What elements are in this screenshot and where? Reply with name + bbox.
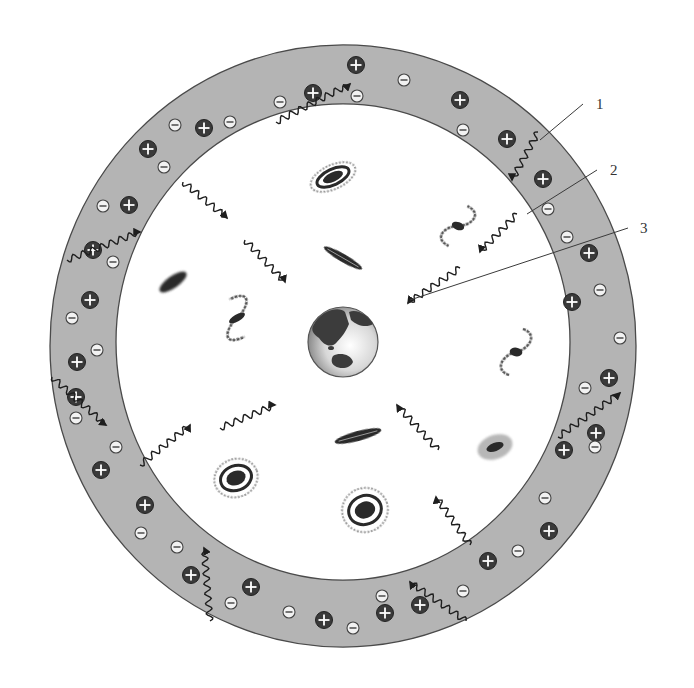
galaxy-spiral-bottom-left-icon [209, 453, 263, 504]
plus-charge-icon [121, 197, 138, 214]
galaxy-spiral-left-icon [212, 292, 262, 344]
minus-charge-icon [614, 332, 626, 344]
galaxy-edge-on-top-icon [322, 244, 364, 273]
minus-charge-icon [135, 527, 147, 539]
galaxy-spiral-top-icon [306, 156, 360, 198]
minus-charge-icon [110, 441, 122, 453]
callout-3-label: 3 [640, 220, 648, 236]
plus-charge-icon [452, 92, 469, 109]
minus-charge-icon [594, 284, 606, 296]
minus-charge-icon [539, 492, 551, 504]
plus-charge-icon [93, 462, 110, 479]
callout-1-label: 1 [596, 96, 604, 112]
minus-charge-icon [589, 441, 601, 453]
minus-charge-icon [542, 203, 554, 215]
minus-charge-icon [274, 96, 286, 108]
plus-charge-icon [316, 612, 333, 629]
minus-charge-icon [158, 161, 170, 173]
plus-charge-icon [535, 171, 552, 188]
minus-charge-icon [224, 116, 236, 128]
galaxy-edge-on-bottom-icon [334, 425, 383, 447]
galaxy-spiral-bottom-icon [336, 481, 394, 538]
plus-charge-icon [564, 294, 581, 311]
galaxy-spiral-right-icon [499, 326, 532, 378]
wave-in-3-arrow-icon [480, 213, 517, 252]
minus-charge-icon [457, 124, 469, 136]
plus-charge-icon [541, 523, 558, 540]
minus-charge-icon [171, 541, 183, 553]
minus-charge-icon [561, 231, 573, 243]
minus-charge-icon [347, 622, 359, 634]
plus-charge-icon [69, 354, 86, 371]
wave-in-6-arrow-icon [436, 497, 471, 545]
minus-charge-icon [107, 256, 119, 268]
minus-charge-icon [169, 119, 181, 131]
wave-in-4-arrow-icon [408, 267, 460, 303]
plus-charge-icon [601, 370, 618, 387]
wave-in-5-arrow-icon [397, 405, 439, 450]
plus-charge-icon [412, 597, 429, 614]
wave-in-1-arrow-icon [183, 182, 228, 218]
minus-charge-icon [579, 382, 591, 394]
diagram-canvas: 123 [0, 0, 694, 688]
minus-charge-icon [97, 200, 109, 212]
callout-1-leader-line [540, 104, 583, 140]
minus-charge-icon [512, 545, 524, 557]
plus-charge-icon [137, 497, 154, 514]
plus-charge-icon [377, 605, 394, 622]
plus-charge-icon [499, 131, 516, 148]
minus-charge-icon [351, 90, 363, 102]
galaxy-spiral-right-top-icon [439, 201, 478, 251]
callout-2-label: 2 [610, 162, 618, 178]
plus-charge-icon [480, 553, 497, 570]
plus-charge-icon [348, 57, 365, 74]
plus-charge-icon [140, 141, 157, 158]
plus-charge-icon [243, 579, 260, 596]
plus-charge-icon [196, 120, 213, 137]
minus-charge-icon [457, 585, 469, 597]
wave-out-1-arrow-icon [220, 405, 275, 430]
minus-charge-icon [91, 344, 103, 356]
galaxy-elliptical-left-icon [156, 268, 189, 296]
plus-charge-icon [581, 245, 598, 262]
minus-charge-icon [225, 597, 237, 609]
wave-out-2-arrow-icon [140, 425, 190, 466]
galaxy-irregular-icon [474, 430, 516, 465]
minus-charge-icon [66, 312, 78, 324]
plus-charge-icon [82, 292, 99, 309]
minus-charge-icon [70, 412, 82, 424]
earth-globe-icon [308, 307, 378, 377]
minus-charge-icon [283, 606, 295, 618]
plus-charge-icon [556, 442, 573, 459]
minus-charge-icon [376, 590, 388, 602]
plus-charge-icon [588, 425, 605, 442]
plus-charge-icon [183, 567, 200, 584]
minus-charge-icon [398, 74, 410, 86]
wave-in-2-arrow-icon [244, 240, 285, 282]
